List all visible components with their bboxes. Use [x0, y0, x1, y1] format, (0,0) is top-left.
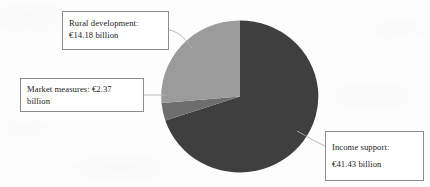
callout-income-support-line1: Income support:	[332, 139, 418, 156]
pie-slice-rural-development	[161, 20, 240, 103]
callout-market-measures: Market measures: €2.37 billion	[20, 78, 144, 112]
callout-market-measures-line2: billion	[27, 95, 138, 107]
callout-market-measures-line1: Market measures: €2.37	[27, 83, 138, 95]
callout-income-support: Income support: €41.43 billion	[325, 131, 424, 181]
pie-chart-figure: Rural development: €14.18 billion Market…	[0, 0, 430, 187]
callout-rural-development-line2: €14.18 billion	[69, 29, 163, 41]
callout-rural-development: Rural development: €14.18 billion	[62, 11, 169, 50]
callout-rural-development-line1: Rural development:	[69, 17, 163, 29]
pie-chart-graphic	[161, 20, 319, 173]
pie-slices-svg	[161, 20, 319, 173]
callout-income-support-line2: €41.43 billion	[332, 156, 418, 173]
